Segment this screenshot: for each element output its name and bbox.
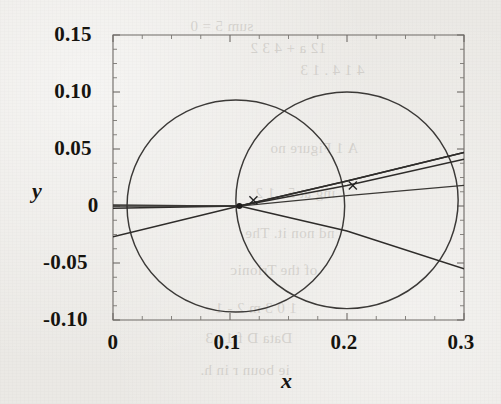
x-tick-label: 0.2 xyxy=(331,330,358,355)
x-axis-label: x xyxy=(281,368,292,394)
y-axis-ticks xyxy=(113,35,464,320)
y-tick-label: 0.15 xyxy=(54,22,92,47)
branch-rising-from-left xyxy=(113,152,464,236)
series-paths xyxy=(113,92,464,312)
branch-flat xyxy=(113,185,464,206)
y-tick-label: 0.05 xyxy=(54,136,92,161)
y-tick-label: 0 xyxy=(88,193,99,218)
plot-frame xyxy=(113,35,464,320)
y-axis-label: y xyxy=(32,178,42,204)
chart-canvas xyxy=(0,0,501,404)
x-axis-ticks xyxy=(113,35,464,320)
branch-descending xyxy=(239,206,464,269)
node-point xyxy=(236,203,242,209)
scanned-page-background: sum 5 = 012 a + 4 3 24 1 4 . 1 3A 1 Figu… xyxy=(0,0,501,404)
y-tick-label: 0.10 xyxy=(54,79,92,104)
y-tick-label: -0.05 xyxy=(43,250,88,275)
x-tick-label: 0.1 xyxy=(214,330,241,355)
branch-upper xyxy=(113,152,464,206)
y-tick-label: -0.10 xyxy=(43,307,88,332)
data-layer xyxy=(113,92,464,312)
x-tick-label: 0.3 xyxy=(448,330,475,355)
x-tick-label: 0 xyxy=(108,330,119,355)
